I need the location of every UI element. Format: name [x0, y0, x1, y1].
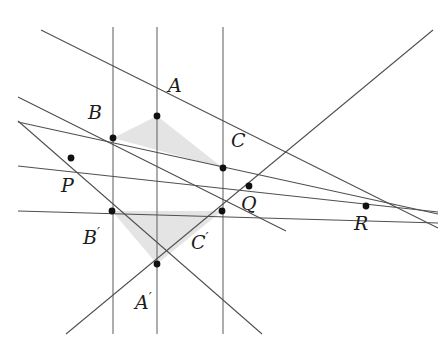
point-B	[110, 135, 117, 142]
prime-mark: ′	[206, 230, 209, 245]
point-P	[68, 155, 75, 162]
point-A	[154, 113, 161, 120]
label-A-prime: A′	[135, 291, 152, 312]
label-B-prime: B′	[83, 226, 100, 247]
prime-mark: ′	[97, 225, 100, 240]
line-BpCp-extended-to-R	[18, 211, 438, 223]
line-ApCp-extended-to-Q	[66, 30, 433, 334]
label-B: B	[88, 103, 102, 122]
label-P: P	[61, 176, 74, 195]
point-R	[363, 203, 370, 210]
point-C-prime	[219, 208, 226, 215]
label-A: A	[168, 76, 182, 95]
label-C-prime: C′	[191, 231, 209, 252]
label-R: R	[354, 214, 368, 233]
point-Q	[246, 183, 253, 190]
line-PQR	[18, 166, 438, 212]
figure-canvas: A B C A′ B′ C′ P Q R	[0, 0, 445, 352]
prime-mark: ′	[149, 290, 152, 305]
triangle-side-lines	[18, 30, 438, 334]
triangle-ABC-shade	[113, 116, 223, 168]
point-B-prime	[109, 208, 116, 215]
point-C	[220, 165, 227, 172]
axis-of-perspectivity	[18, 166, 438, 212]
label-Q: Q	[241, 194, 257, 213]
label-C: C	[231, 131, 246, 150]
point-A-prime	[154, 261, 161, 268]
